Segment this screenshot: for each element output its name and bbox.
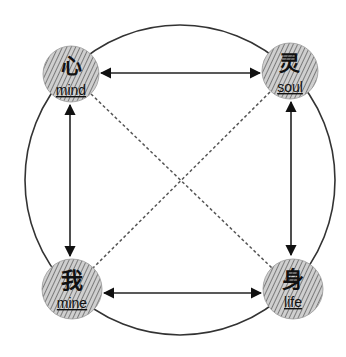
dashed-edge-mind-life <box>91 94 272 268</box>
node-mind: 心 mind <box>43 46 99 102</box>
dashed-edge-soul-mine <box>93 92 270 268</box>
node-life: 身 life <box>263 259 323 319</box>
node-life-chinese: 身 <box>282 267 304 292</box>
node-life-english: life <box>284 294 302 310</box>
node-mine-chinese: 我 <box>61 268 83 293</box>
node-mind-chinese: 心 <box>61 54 82 78</box>
node-mind-english: mind <box>56 82 86 98</box>
node-mine: 我 mine <box>42 259 102 319</box>
node-soul-english: soul <box>277 79 303 95</box>
node-soul: 灵 soul <box>262 43 318 99</box>
node-soul-chinese: 灵 <box>279 51 301 75</box>
node-mine-english: mine <box>57 295 88 311</box>
heart-mind-soul-body-diagram: 心 mind 灵 soul 我 mine 身 life <box>0 0 346 357</box>
